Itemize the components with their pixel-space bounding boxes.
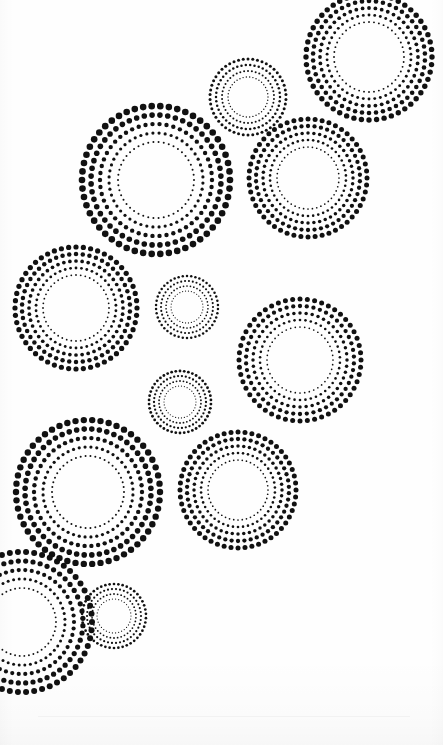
center-small-ring-lower-band-2 bbox=[153, 375, 207, 429]
middle-left-ring-band-1 bbox=[35, 267, 118, 350]
lower-left-large-ring-band-3 bbox=[22, 426, 153, 557]
center-small-ring-upper-band-1 bbox=[165, 285, 209, 329]
bottom-left-partial-ring-band-0 bbox=[0, 587, 57, 657]
lower-right-ring-band-2 bbox=[192, 444, 284, 536]
middle-right-ring-band-0 bbox=[266, 326, 334, 394]
middle-left-ring-band-2 bbox=[27, 259, 125, 357]
upper-left-largest-ring-band-3 bbox=[88, 112, 223, 247]
top-right-large-ring-band-1 bbox=[326, 14, 413, 101]
top-small-ring-band-3 bbox=[209, 58, 288, 137]
middle-left-ring bbox=[12, 244, 139, 371]
lower-right-ring bbox=[178, 430, 299, 551]
middle-right-ring-band-1 bbox=[259, 319, 341, 402]
center-small-ring-lower-band-0 bbox=[163, 385, 196, 418]
upper-right-medium-ring-band-4 bbox=[247, 117, 370, 240]
center-small-ring-upper bbox=[155, 275, 219, 340]
upper-left-largest-ring bbox=[79, 103, 234, 257]
top-right-large-ring bbox=[303, 0, 434, 123]
middle-left-ring-band-0 bbox=[42, 274, 110, 342]
top-small-ring-band-0 bbox=[227, 76, 268, 117]
top-right-large-ring-band-0 bbox=[333, 21, 405, 93]
lower-right-ring-band-1 bbox=[200, 452, 276, 529]
lower-right-ring-band-0 bbox=[207, 459, 269, 521]
middle-left-ring-band-4 bbox=[12, 244, 139, 371]
artboard bbox=[0, 0, 443, 745]
bottom-small-ring-band-0 bbox=[96, 598, 131, 633]
dotted-rings-artwork bbox=[0, 0, 443, 745]
center-small-ring-lower-band-1 bbox=[158, 380, 202, 424]
upper-right-medium-ring-band-1 bbox=[269, 139, 347, 218]
top-small-ring bbox=[209, 58, 288, 137]
upper-right-medium-ring-band-2 bbox=[261, 131, 355, 225]
middle-right-ring-band-4 bbox=[237, 297, 364, 424]
center-small-ring-lower bbox=[148, 370, 213, 435]
center-small-ring-upper-band-3 bbox=[155, 275, 219, 340]
center-small-ring-lower-band-3 bbox=[148, 370, 213, 435]
lower-left-large-ring-band-1 bbox=[42, 446, 135, 539]
bottom-small-ring-band-2 bbox=[86, 588, 142, 644]
upper-left-largest-ring-band-0 bbox=[117, 141, 195, 219]
lower-left-large-ring-band-0 bbox=[51, 455, 125, 529]
upper-left-largest-ring-band-2 bbox=[98, 122, 214, 238]
center-small-ring-upper-band-2 bbox=[160, 280, 214, 334]
upper-right-medium-ring bbox=[247, 117, 370, 240]
middle-right-ring-band-2 bbox=[251, 311, 349, 409]
lower-left-large-ring-band-2 bbox=[32, 436, 144, 548]
top-small-ring-band-1 bbox=[221, 70, 275, 124]
center-small-ring-upper-band-0 bbox=[170, 290, 203, 323]
bottom-left-partial-ring bbox=[0, 549, 95, 695]
upper-left-largest-ring-band-1 bbox=[108, 132, 205, 229]
middle-right-ring bbox=[237, 297, 364, 424]
bottom-small-ring-band-1 bbox=[91, 593, 137, 639]
top-small-ring-band-2 bbox=[215, 64, 282, 130]
bottom-left-partial-ring-band-2 bbox=[0, 568, 76, 676]
lower-left-large-ring bbox=[13, 417, 163, 567]
upper-right-medium-ring-band-0 bbox=[276, 146, 340, 210]
